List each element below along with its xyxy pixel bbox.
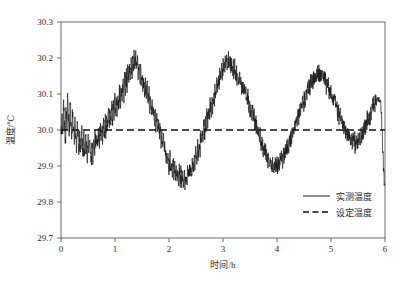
x-tick-label: 6 [383, 244, 388, 254]
y-tick-label: 29.9 [37, 161, 53, 171]
x-tick-label: 0 [59, 244, 64, 254]
x-tick-label: 5 [329, 244, 334, 254]
temperature-line-chart: 29.729.829.930.030.130.230.3 0123456 温度/… [0, 0, 402, 284]
y-tick-label: 29.8 [37, 197, 53, 207]
x-axis-title: 时间/h [210, 259, 236, 270]
legend-label-measured: 实测温度 [336, 191, 372, 202]
y-tick-label: 30.2 [37, 53, 53, 63]
x-tick-label: 1 [113, 244, 118, 254]
x-tick-label: 2 [167, 244, 172, 254]
y-tick-label: 29.7 [37, 233, 53, 243]
chart-figure: 29.729.829.930.030.130.230.3 0123456 温度/… [0, 0, 402, 284]
y-tick-label: 30.1 [37, 89, 53, 99]
y-axis-title: 温度/℃ [5, 115, 16, 146]
x-tick-label: 3 [221, 244, 226, 254]
y-tick-label: 30.0 [37, 125, 53, 135]
y-tick-label: 30.3 [37, 17, 53, 27]
legend-label-setpoint: 设定温度 [336, 207, 372, 218]
x-tick-label: 4 [275, 244, 280, 254]
